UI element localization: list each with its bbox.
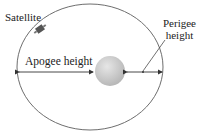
apogee-height-label: Apogee height: [25, 55, 92, 67]
perigee-height-label: Perigee height: [163, 17, 196, 41]
perigee-label-line1: Perigee: [163, 17, 196, 29]
earth-icon: [95, 56, 125, 86]
satellite-icon: [33, 23, 48, 36]
satellite-label: Satellite: [5, 11, 41, 23]
perigee-leader-dot: [142, 71, 144, 73]
perigee-label-line2: height: [163, 29, 196, 41]
